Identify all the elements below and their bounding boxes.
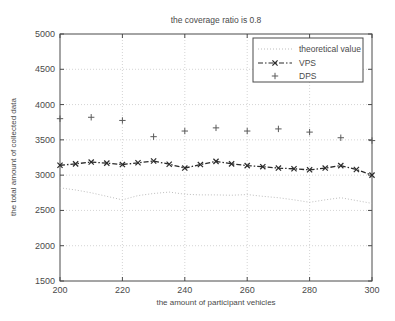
legend-label-vps: VPS [299,58,316,68]
chart-legend[interactable]: theoretical valueVPSDPS [253,38,363,82]
data-series-layer [57,114,375,203]
legend-label-dps: DPS [299,71,317,81]
series-dps [57,114,375,144]
y-tick-label: 5000 [35,29,55,39]
chart-canvas: the coverage ratio is 0.8 20022024026028… [0,0,395,321]
series-theoretical-value [60,188,372,204]
y-tick-label: 4000 [35,100,55,110]
x-tick-label: 220 [115,285,130,295]
y-tick-label: 3000 [35,170,55,180]
x-tick-label: 260 [240,285,255,295]
x-axis-tick-labels: 200220240260280300 [52,285,379,295]
y-tick-label: 1500 [35,276,55,286]
y-tick-label: 3500 [35,135,55,145]
x-tick-label: 300 [364,285,379,295]
x-tick-label: 240 [177,285,192,295]
chart-figure: the coverage ratio is 0.8 20022024026028… [0,0,395,321]
legend-label-theoretical-value: theoretical value [299,44,361,54]
x-tick-label: 200 [52,285,67,295]
y-tick-label: 4500 [35,64,55,74]
y-axis-label: the total amount of collected data [9,98,18,216]
y-tick-label: 2500 [35,205,55,215]
x-axis-label: the amount of participant vehicles [156,298,275,307]
y-tick-label: 2000 [35,241,55,251]
y-axis-tick-labels: 15002000250030003500400045005000 [35,29,55,286]
series-line [60,188,372,204]
chart-title: the coverage ratio is 0.8 [171,15,262,25]
x-tick-label: 280 [302,285,317,295]
